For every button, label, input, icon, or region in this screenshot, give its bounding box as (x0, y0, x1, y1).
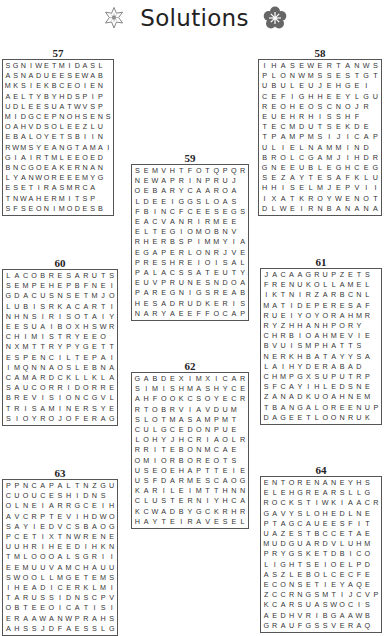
grid-letter: O (203, 394, 212, 404)
grid-letter: M (304, 341, 312, 351)
grid-letter: E (38, 603, 47, 613)
grid-letter (371, 143, 380, 153)
grid-letter: I (321, 580, 329, 590)
grid-letter: A (238, 237, 247, 247)
grid-letter: M (21, 281, 30, 291)
grid-letter: B (270, 403, 278, 413)
grid-letter: B (4, 393, 13, 403)
grid-letter: N (203, 425, 212, 435)
grid-letter: U (278, 81, 287, 91)
grid-letter: G (82, 552, 91, 562)
grid-letter: T (99, 271, 108, 281)
grid-letter: T (279, 478, 287, 488)
grid-letter: A (30, 373, 39, 383)
grid-letter: E (270, 352, 278, 362)
grid-letter (104, 102, 112, 112)
grid-letter: O (321, 403, 329, 413)
grid-letter: E (362, 122, 371, 132)
grid-letter: O (30, 573, 39, 583)
grid-letter: E (363, 382, 371, 392)
grid-letter: I (38, 393, 47, 403)
grid-letter: O (229, 476, 238, 486)
grid-letter: E (4, 614, 13, 624)
grid-letter: W (278, 204, 287, 214)
grid-letter: L (269, 204, 278, 214)
puzzle-number: 59 (131, 152, 249, 164)
grid-letter: F (346, 519, 354, 529)
grid-letter: W (81, 71, 89, 81)
grid-letter: P (221, 166, 230, 176)
grid-letter: E (362, 163, 371, 173)
grid-letter: G (229, 207, 238, 217)
grid-letter: B (13, 603, 22, 613)
grid-letter: I (73, 491, 82, 501)
grid-letter: A (50, 163, 58, 173)
grid-letter: S (229, 197, 238, 207)
grid-letter: I (296, 331, 304, 341)
grid-letter: A (279, 621, 287, 631)
grid-letter: M (355, 311, 363, 321)
grid-letter: R (177, 299, 186, 309)
grid-letter: E (177, 425, 186, 435)
grid-letter: S (296, 600, 304, 610)
grid-letter: N (107, 542, 116, 552)
grid-letter: U (99, 563, 108, 573)
grid-letter: S (325, 173, 334, 183)
grid-letter: E (297, 102, 306, 112)
grid-letter: O (4, 603, 13, 613)
grid-letter: E (90, 532, 99, 542)
grid-letter: C (168, 425, 177, 435)
grid-letter (363, 321, 371, 331)
grid-letter: E (50, 71, 58, 81)
grid-letter: F (278, 92, 287, 102)
grid-letter: F (363, 301, 371, 311)
grid-letter: U (297, 163, 306, 173)
grid-letter: L (82, 373, 91, 383)
grid-letter: K (270, 290, 278, 300)
grid-letter: I (194, 237, 203, 247)
grid-letter: A (262, 611, 270, 621)
grid-letter: I (194, 217, 203, 227)
grid-letter: S (4, 281, 13, 291)
grid-letter: E (238, 384, 247, 394)
grid-letter: G (262, 621, 270, 631)
grid-letter: R (90, 302, 99, 312)
grid-letter: A (13, 271, 22, 281)
grid-letter: L (363, 280, 371, 290)
grid-letter: Z (90, 481, 99, 491)
grid-letter: V (352, 183, 361, 193)
grid-letter: H (355, 478, 363, 488)
grid-letter: O (329, 560, 337, 570)
grid-letter: R (212, 176, 221, 186)
grid-letter: T (304, 498, 312, 508)
grid-letter: S (260, 173, 269, 183)
grid-letter: E (56, 512, 65, 522)
grid-letter: C (133, 496, 142, 506)
grid-letter: E (38, 281, 47, 291)
grid-letter: H (306, 92, 315, 102)
grid-letter: A (107, 363, 116, 373)
grid-letter: E (304, 478, 312, 488)
grid-letter: A (229, 258, 238, 268)
grid-letter: P (355, 560, 363, 570)
grid-letter: G (279, 413, 287, 423)
grid-letter: B (325, 204, 334, 214)
grid-letter: E (43, 112, 51, 122)
grid-letter: W (73, 532, 82, 542)
puzzle-57: 57SGNIWETMIDASLASNADUEESEWABMKSIEKBCEOIE… (2, 47, 114, 216)
grid-letter: M (168, 415, 177, 425)
grid-letter: R (346, 413, 354, 423)
grid-letter: C (38, 491, 47, 501)
grid-letter: U (306, 81, 315, 91)
grid-letter: S (194, 394, 203, 404)
grid-letter: R (177, 258, 186, 268)
grid-letter: F (133, 207, 142, 217)
grid-letter: S (99, 603, 108, 613)
grid-letter: H (313, 382, 321, 392)
grid-letter: M (288, 122, 297, 132)
grid-letter: B (238, 288, 247, 298)
grid-letter: L (352, 92, 361, 102)
grid-letter: N (287, 290, 295, 300)
grid-letter: T (82, 291, 91, 301)
grid-letter: R (355, 372, 363, 382)
